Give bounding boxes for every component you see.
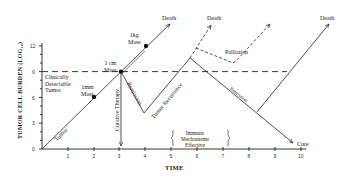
- x-axis: [42, 147, 306, 151]
- x-tick-1: 1: [67, 153, 70, 159]
- label-curative-therapy: Curative Therapy: [114, 89, 121, 131]
- x-axis-title: TIME: [165, 164, 184, 171]
- label-cure: Cure: [297, 141, 309, 148]
- y-tick-9: 9: [32, 69, 35, 75]
- x-tick-2: 2: [93, 153, 96, 159]
- y-tick-0: 0: [32, 146, 35, 152]
- label-1cm-mass: 1 cm Mass: [104, 60, 117, 73]
- x-tick-4: 4: [144, 153, 147, 159]
- x-tick-9: 9: [274, 153, 277, 159]
- death-label-2: Death: [207, 15, 221, 22]
- label-1kg-mass: 1kg Mass: [128, 32, 141, 45]
- y-axis-title: TUMOR CELL BURDEN (LOG₁₀): [17, 42, 23, 139]
- x-tick-3: 3: [118, 153, 121, 159]
- y-tick-12: 12: [30, 43, 36, 49]
- label-palliation: Palliation: [225, 49, 248, 56]
- palliation-line: [196, 24, 270, 63]
- x-tick-5: 5: [170, 153, 173, 159]
- untreated-growth-line-inner: [123, 51, 145, 73]
- y-axis: [39, 43, 42, 149]
- x-tick-7: 7: [222, 153, 225, 159]
- label-1mm-mass: 1mm Mass: [81, 84, 94, 97]
- death-label-1: Death: [162, 15, 176, 22]
- x-tick-10: 10: [298, 153, 304, 159]
- label-clinically-detectable-tumor: Clinically Detectable Tumor: [45, 74, 71, 94]
- label-immune-mechanisms-effective: Immune Mechanisms Effective: [181, 130, 209, 148]
- death-label-3: Death: [320, 15, 334, 22]
- immune-brace-left: [171, 130, 174, 146]
- x-tick-6: 6: [196, 153, 199, 159]
- y-tick-6: 6: [32, 95, 35, 101]
- y-tick-3: 3: [32, 120, 35, 126]
- relapse-death-line: [257, 24, 329, 112]
- immune-brace-right: [227, 130, 230, 146]
- point-1cm-mass: [119, 69, 123, 73]
- point-1kg-mass: [144, 44, 148, 48]
- x-tick-8: 8: [248, 153, 251, 159]
